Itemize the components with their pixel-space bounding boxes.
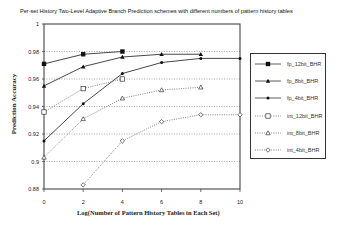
svg-text:0.96: 0.96: [28, 76, 39, 82]
svg-text:0.94: 0.94: [28, 104, 39, 110]
series-fp_8bit_BHR: [42, 52, 203, 88]
legend-marker-icon: [251, 91, 287, 105]
legend-marker-icon: [251, 126, 287, 140]
legend-item: int_12bit_BHR: [251, 109, 327, 123]
svg-text:8: 8: [199, 199, 202, 205]
legend-marker-icon: [251, 57, 287, 71]
svg-text:4: 4: [121, 199, 124, 205]
y-axis-label: Prediction Accuracy: [10, 74, 18, 135]
series-int_8bit_BHR: [42, 85, 203, 159]
svg-text:1: 1: [36, 21, 39, 27]
legend-marker-icon: [251, 143, 287, 157]
legend-item: fp_8bit_BHR: [251, 74, 327, 88]
svg-text:0.9: 0.9: [31, 159, 39, 165]
svg-text:0.98: 0.98: [28, 49, 39, 55]
series-int_12bit_BHR: [42, 77, 125, 114]
x-axis-label: Log(Number of Pattern History Tables in …: [77, 209, 220, 216]
legend-item: fp_4bit_BHR: [251, 91, 327, 105]
svg-text:0: 0: [42, 199, 45, 205]
svg-text:0.88: 0.88: [28, 186, 39, 192]
legend-item: int_8bit_BHR: [251, 126, 327, 140]
series-int_4bit_BHR: [81, 113, 242, 188]
svg-text:0.92: 0.92: [28, 131, 39, 137]
legend-item: fp_12bit_BHR: [251, 57, 327, 71]
legend: fp_12bit_BHR fp_8bit_BHR fp_4bit_BHR int…: [250, 53, 326, 159]
svg-text:10: 10: [237, 199, 243, 205]
svg-text:6: 6: [160, 199, 163, 205]
svg-text:2: 2: [82, 199, 85, 205]
legend-item: int_4bit_BHR: [251, 143, 327, 157]
legend-marker-icon: [251, 74, 287, 88]
legend-marker-icon: [251, 109, 287, 123]
